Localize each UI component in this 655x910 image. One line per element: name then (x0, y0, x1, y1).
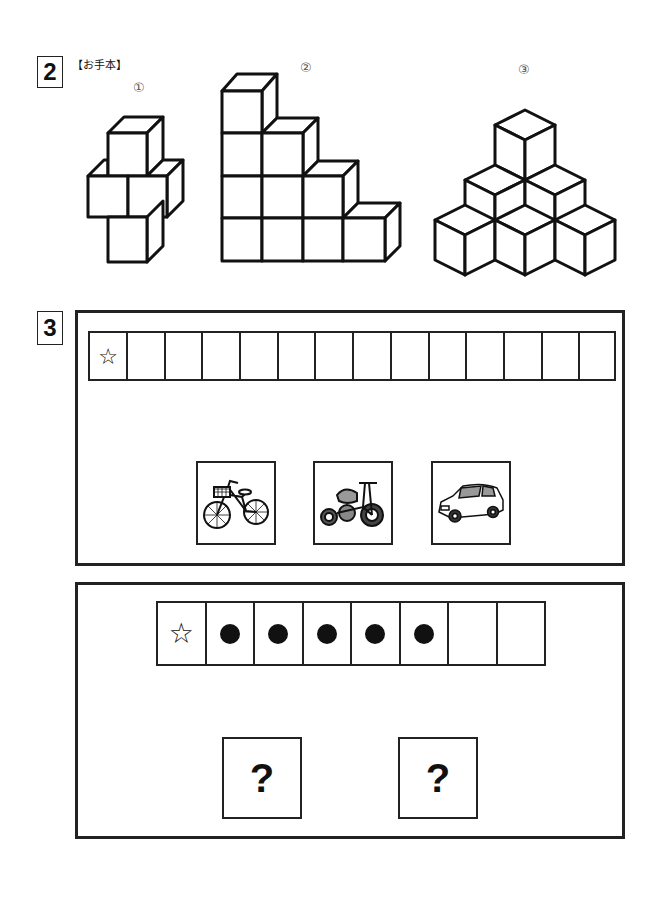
bicycle-icon (200, 473, 272, 533)
question-number-3: 3 (37, 311, 63, 345)
example-label: 【お手本】 (72, 56, 127, 72)
row-cell[interactable] (316, 333, 354, 379)
picture-tricycle[interactable] (313, 461, 393, 545)
cube-figure-3 (430, 88, 620, 278)
row-cell-dot[interactable] (352, 603, 401, 664)
question-number-2: 2 (37, 56, 63, 88)
row-cell-dot[interactable] (401, 603, 450, 664)
row-cell[interactable] (128, 333, 166, 379)
row-cell-empty[interactable] (449, 603, 498, 664)
question-box-2[interactable]: ? (398, 737, 478, 819)
picture-bicycle[interactable] (196, 461, 276, 545)
figure-label-3: ③ (518, 62, 530, 77)
row-cell[interactable] (392, 333, 430, 379)
answer-row-2: ☆ (156, 601, 546, 666)
row-cell[interactable] (354, 333, 392, 379)
row-cell-dot[interactable] (304, 603, 353, 664)
row-cell[interactable] (467, 333, 505, 379)
row-cell[interactable] (580, 333, 614, 379)
car-icon (435, 478, 507, 528)
row-cell[interactable] (241, 333, 279, 379)
row-cell-dot[interactable] (207, 603, 256, 664)
row-cell-start[interactable]: ☆ (158, 603, 207, 664)
row-cell[interactable] (203, 333, 241, 379)
dot-icon (317, 624, 337, 644)
cube-figure-1 (80, 110, 190, 265)
row-cell-start[interactable]: ☆ (90, 333, 128, 379)
row-cell[interactable] (279, 333, 317, 379)
dot-icon (414, 624, 434, 644)
answer-row-1: ☆ (88, 331, 616, 381)
panel-sequence-1: ☆ (75, 310, 625, 566)
dot-icon (365, 624, 385, 644)
row-cell[interactable] (430, 333, 468, 379)
dot-icon (220, 624, 240, 644)
row-cell[interactable] (543, 333, 581, 379)
dot-icon (268, 624, 288, 644)
row-cell-empty[interactable] (498, 603, 545, 664)
cube-figure-2 (215, 70, 410, 265)
row-cell[interactable] (505, 333, 543, 379)
picture-car[interactable] (431, 461, 511, 545)
panel-sequence-2: ☆ ? ? (75, 582, 625, 839)
row-cell-dot[interactable] (255, 603, 304, 664)
question-box-1[interactable]: ? (222, 737, 302, 819)
row-cell[interactable] (166, 333, 204, 379)
tricycle-icon (317, 473, 389, 533)
figure-label-1: ① (133, 80, 145, 95)
